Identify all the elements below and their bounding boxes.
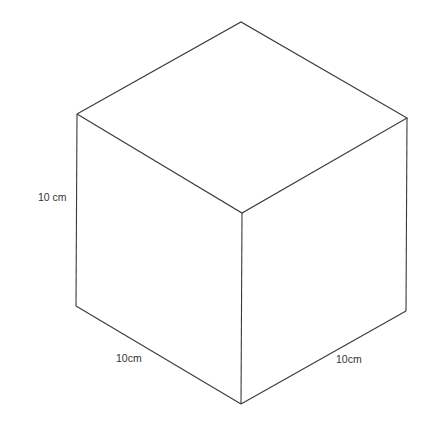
right-vertical-edge bbox=[406, 118, 407, 311]
left-vertical-edge bbox=[76, 114, 77, 306]
height-label: 10 cm bbox=[38, 191, 67, 203]
center-vertical-edge bbox=[241, 213, 242, 404]
depth-label: 10cm bbox=[116, 352, 142, 364]
top-face bbox=[77, 22, 407, 213]
bottom-left-edge bbox=[76, 306, 241, 404]
width-label: 10cm bbox=[336, 353, 362, 365]
bottom-right-edge bbox=[241, 311, 406, 404]
cube bbox=[76, 22, 407, 404]
